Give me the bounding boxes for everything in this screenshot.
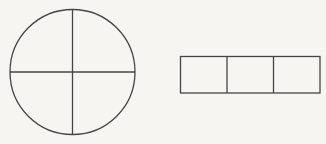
drawing-svg	[0, 0, 326, 144]
strip-outline	[181, 57, 321, 94]
drawing-canvas	[0, 0, 326, 144]
